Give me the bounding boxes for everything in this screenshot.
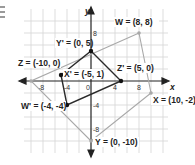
tick-x-neg4: -4	[64, 84, 70, 91]
tick-x-neg8: -8	[38, 84, 44, 91]
point-z	[29, 79, 33, 83]
tick-y-neg8: -8	[93, 126, 99, 133]
label-y-prime: Y' = (0, 5)	[56, 38, 93, 48]
label-z: Z = (-10, 0)	[18, 58, 60, 68]
point-x-prime	[59, 73, 63, 77]
point-y	[89, 139, 93, 143]
point-z-prime	[119, 79, 123, 83]
label-w-prime: W' = (-4, -4)	[21, 101, 66, 111]
tick-x-8: 8	[137, 84, 141, 91]
x-axis-right-arrow-icon	[162, 78, 169, 84]
x-axis-left-arrow-icon	[19, 78, 26, 84]
y-axis-down-arrow-icon	[88, 150, 94, 157]
tick-x-0: 0	[86, 84, 90, 91]
label-y: Y = (0, -10)	[95, 137, 138, 147]
tick-y-8: 8	[93, 30, 97, 37]
tick-y-neg4: -4	[93, 102, 99, 109]
label-w: W = (8, 8)	[115, 17, 153, 27]
point-y-prime	[89, 49, 93, 53]
coordinate-plane-figure: y x -8 -4 0 4 8 8 -4 -8 W = (8, 8) X = (…	[0, 0, 195, 165]
x-axis-label: x	[169, 82, 176, 92]
label-x: X = (10, -2)	[153, 95, 195, 105]
label-x-prime: X' = (-5, 1)	[64, 69, 104, 79]
point-w	[137, 31, 141, 35]
label-z-prime: Z' = (5, 0)	[117, 63, 154, 73]
